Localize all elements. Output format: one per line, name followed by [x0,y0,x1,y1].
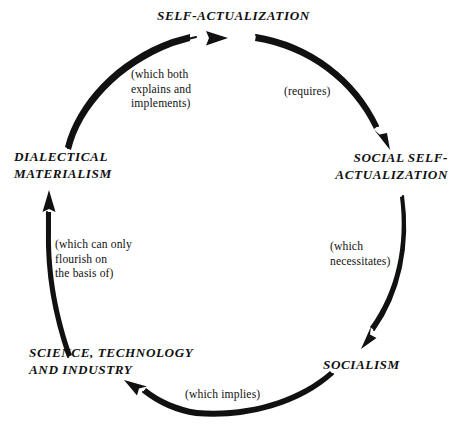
edge-label-flourish: (which can only flourish on the basis of… [55,238,132,282]
node-dialectical-materialism: DIALECTICAL MATERIALISM [14,149,112,182]
cycle-diagram: SELF-ACTUALIZATION SOCIAL SELF- ACTUALIZ… [0,0,458,439]
edge-label-requires: (requires) [284,85,331,100]
edge-label-implies: (which implies) [185,388,260,403]
node-social-self-actualization: SOCIAL SELF- ACTUALIZATION [328,150,448,183]
arrowhead-explains [206,31,228,46]
node-socialism: SOCIALISM [323,357,400,374]
arrowhead-flourish [43,190,56,212]
edge-necessitates-arc [361,196,405,349]
arrowhead-requires [374,130,390,151]
node-science-technology-industry: SCIENCE, TECHNOLOGY AND INDUSTRY [29,345,193,378]
edge-label-necessitates: (which necessitates) [330,240,391,269]
node-self-actualization: SELF-ACTUALIZATION [157,8,310,25]
edge-label-explains: (which both explains and implements) [131,68,191,112]
